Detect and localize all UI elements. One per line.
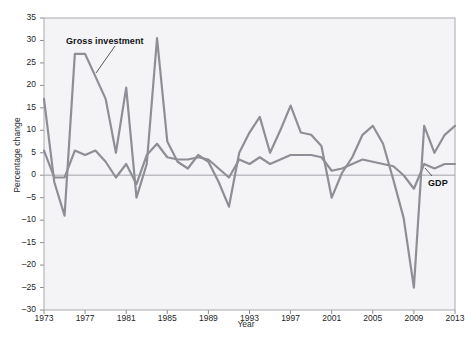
series-label-gross-investment: Gross investment [66,36,144,46]
figure-container: Percentage change Year 35302520151050–5–… [0,0,476,346]
x-tick-marks [44,310,455,314]
chart-plot [0,0,476,346]
figure-bottom-note [4,337,304,345]
y-tick-marks [40,18,44,310]
series-label-gdp: GDP [428,178,448,188]
